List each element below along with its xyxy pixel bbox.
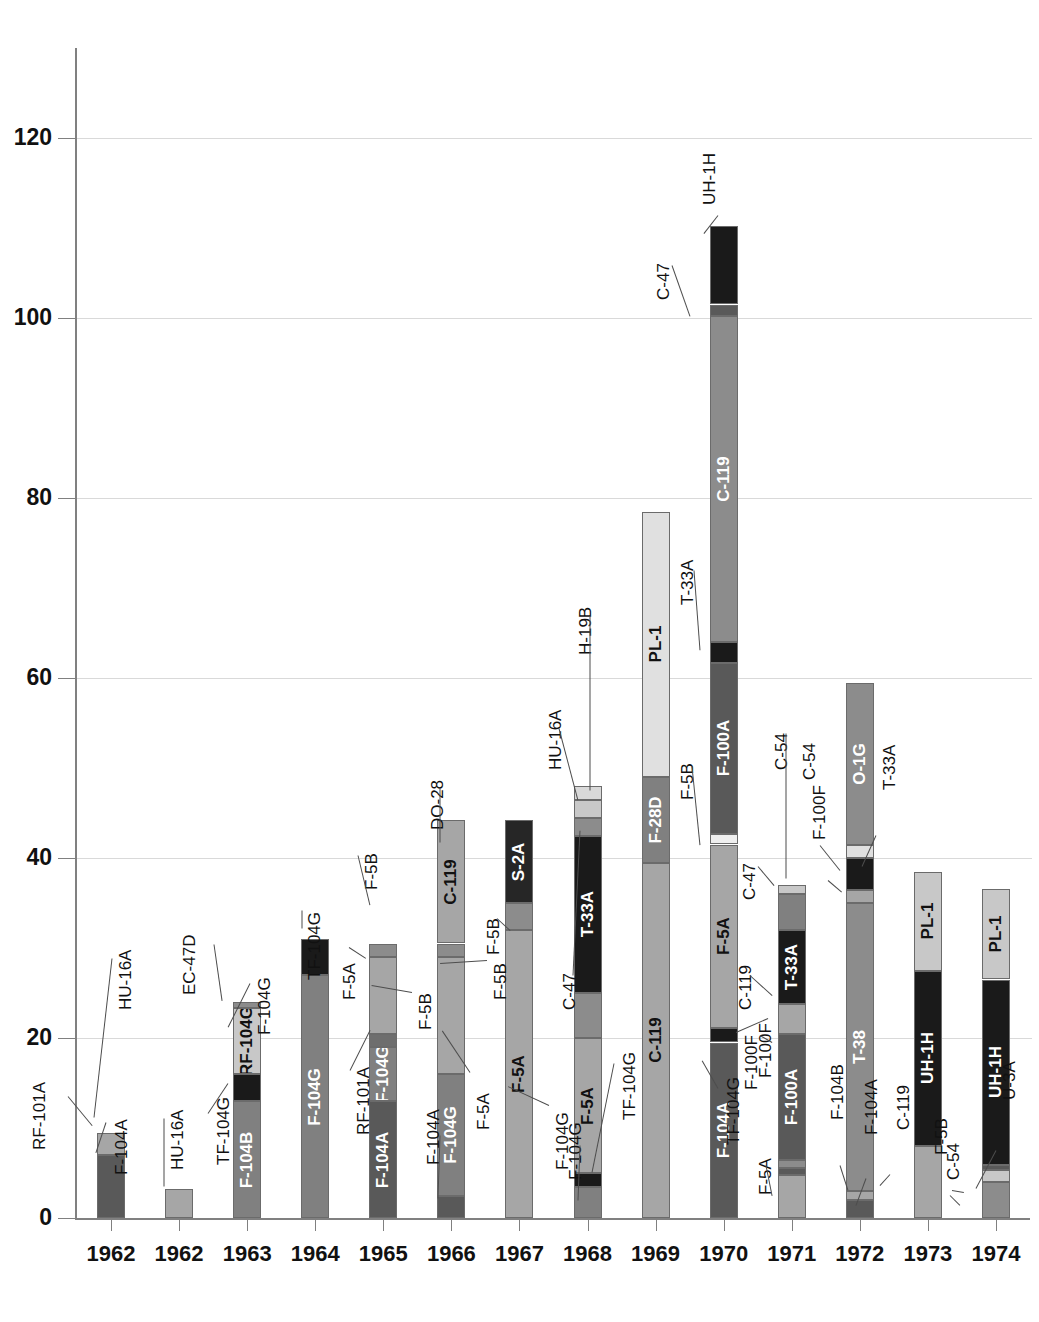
bar-segment-F-28D[interactable]: F-28D <box>642 777 670 863</box>
bar-segment-PL-1[interactable]: PL-1 <box>642 512 670 778</box>
bar-segment-F-5A[interactable] <box>778 1175 806 1218</box>
bar-segment-F-5A[interactable] <box>437 957 465 1074</box>
bar-segment-F-104B[interactable]: F-104B <box>233 1101 261 1218</box>
callout-label: DO-28 <box>428 780 448 830</box>
bar-1967-6[interactable]: F-5AS-2A <box>505 48 533 1218</box>
segment-label: F-104A <box>373 1131 393 1188</box>
bar-1970-9[interactable]: F-104AF-5AF-100AC-119 <box>710 48 738 1218</box>
segment-label: F-28D <box>646 796 666 843</box>
callout-leader-line <box>758 866 775 886</box>
bar-segment-RF-101A[interactable] <box>369 1034 397 1048</box>
segment-label: T-38 <box>850 1030 870 1064</box>
bar-segment-F-5B[interactable] <box>505 903 533 930</box>
bar-segment-C-119[interactable]: C-119 <box>710 316 738 642</box>
bar-segment-F-100F[interactable] <box>846 890 874 904</box>
callout-label: C-119 <box>894 1085 914 1130</box>
segment-label: T-33A <box>578 891 598 937</box>
bar-segment-T-33A[interactable]: T-33A <box>778 930 806 1004</box>
y-tick-label: 80 <box>0 486 52 509</box>
bar-segment-T-33A[interactable] <box>710 642 738 663</box>
gridline <box>77 318 1032 319</box>
y-tick <box>58 1218 75 1219</box>
callout-leader-line <box>786 734 787 879</box>
callout-label: TF-104G <box>724 1077 744 1145</box>
callout-leader-line <box>164 1119 165 1187</box>
bar-segment-TF-104G[interactable] <box>710 1028 738 1042</box>
bar-segment-TF-104G[interactable] <box>233 1074 261 1101</box>
callout-label: H-19B <box>576 607 596 655</box>
bar-segment-F-5B[interactable] <box>710 834 738 845</box>
bar-segment-F-5B[interactable] <box>437 944 465 958</box>
bar-1965-4[interactable]: F-104AF-104G <box>369 48 397 1218</box>
bar-1974-13[interactable]: UH-1HPL-1 <box>982 48 1010 1218</box>
callout-label: EC-47D <box>180 935 200 995</box>
bar-segment-C-119[interactable]: C-119 <box>642 863 670 1219</box>
bar-segment-F-5B[interactable] <box>369 944 397 958</box>
callout-label: U-3A <box>1000 1061 1020 1100</box>
gridline <box>77 678 1032 679</box>
segment-label: PL-1 <box>918 903 938 940</box>
callout-label: F-5A <box>340 963 360 1000</box>
bar-segment-UH-1H[interactable] <box>710 226 738 304</box>
segment-label: PL-1 <box>986 916 1006 953</box>
bar-segment-F-100F[interactable] <box>778 1160 806 1167</box>
bar-1971-10[interactable]: F-100AT-33A <box>778 48 806 1218</box>
callout-label: HU-16A <box>546 710 566 770</box>
callout-leader-line <box>302 911 303 929</box>
bar-segment-C-47[interactable] <box>778 885 806 894</box>
x-tick <box>792 1220 793 1231</box>
bar-1962-1[interactable] <box>165 48 193 1218</box>
bar-segment-T-38[interactable]: T-38 <box>846 903 874 1191</box>
callout-label: F-5A <box>756 1158 776 1195</box>
bar-segment-C-54[interactable] <box>778 894 806 930</box>
bar-1963-2[interactable]: F-104BRF-104G <box>233 48 261 1218</box>
bar-segment-F-104A[interactable] <box>846 1200 874 1218</box>
bar-segment-C-119[interactable]: C-119 <box>437 820 465 943</box>
bar-segment-C-47[interactable] <box>710 305 738 317</box>
callout-leader-line <box>440 789 441 843</box>
bar-segment-HU-16A[interactable] <box>165 1189 193 1218</box>
bar-segment-C-54[interactable] <box>982 1170 1010 1182</box>
segment-label: S-2A <box>509 842 529 881</box>
bar-segment-F-5A[interactable]: F-5A <box>710 845 738 1029</box>
callout-label: C-119 <box>736 965 756 1010</box>
bar-segment-F-100A[interactable]: F-100A <box>778 1034 806 1160</box>
bar-segment-HU-16A[interactable] <box>574 800 602 818</box>
bar-segment-TF-104G[interactable] <box>778 1168 806 1175</box>
bar-1973-12[interactable]: UH-1HPL-1 <box>914 48 942 1218</box>
callout-leader-line <box>880 1174 891 1186</box>
bar-1964-3[interactable]: F-104G <box>301 48 329 1218</box>
x-tick <box>111 1220 112 1231</box>
bar-segment-C-119[interactable] <box>914 1146 942 1218</box>
bar-segment-F-5B[interactable] <box>982 1182 1010 1218</box>
x-tick <box>928 1220 929 1231</box>
bar-segment-C-47[interactable] <box>574 818 602 836</box>
callout-leader-line <box>952 1190 964 1193</box>
bar-segment-F-104G[interactable]: F-104G <box>301 975 329 1218</box>
segment-label: RF-104G <box>237 1008 257 1074</box>
stacked-bar-chart: 020406080100120 F-104BRF-104GF-104GF-104… <box>0 0 1039 1322</box>
bar-1969-8[interactable]: C-119F-28DPL-1 <box>642 48 670 1218</box>
callout-label: RF-101A <box>30 1082 50 1150</box>
callout-label: TF-104G <box>214 1097 234 1165</box>
x-tick <box>860 1220 861 1231</box>
bar-segment-O-1G[interactable]: O-1G <box>846 683 874 845</box>
bar-segment-F-5A[interactable] <box>369 957 397 1034</box>
bar-1972-11[interactable]: T-38O-1G <box>846 48 874 1218</box>
bar-segment-PL-1[interactable]: PL-1 <box>982 889 1010 980</box>
segment-label: UH-1H <box>918 1032 938 1084</box>
callout-label: HU-16A <box>168 1110 188 1170</box>
y-tick-label: 60 <box>0 666 52 689</box>
callout-label: F-5B <box>491 963 511 1000</box>
bar-segment-C-119[interactable] <box>778 1004 806 1035</box>
bar-segment-H-19B[interactable] <box>574 786 602 800</box>
bar-segment-PL-1[interactable]: PL-1 <box>914 872 942 971</box>
bar-segment-T-33A[interactable] <box>846 858 874 890</box>
bar-segment-S-2A[interactable]: S-2A <box>505 820 533 903</box>
bar-segment-F-104A[interactable] <box>437 1196 465 1219</box>
callout-label: F-104A <box>424 1109 444 1165</box>
bar-segment-F-100A[interactable]: F-100A <box>710 663 738 834</box>
callout-label: F-104B <box>828 1064 848 1120</box>
gridline <box>77 858 1032 859</box>
segment-label: F-104B <box>237 1131 257 1188</box>
